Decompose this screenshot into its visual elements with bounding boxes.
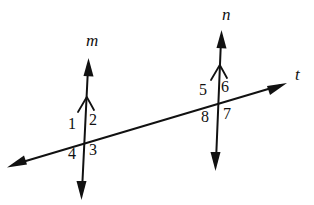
angle-label-4: 4 <box>68 146 76 162</box>
angle-label-2: 2 <box>89 112 97 128</box>
line-n-segment <box>216 40 221 161</box>
line-label-t: t <box>295 66 300 83</box>
line-t-arrow-left <box>7 156 27 168</box>
line-m-arrow-bottom <box>77 181 87 200</box>
line-label-m: m <box>86 32 98 49</box>
line-n-group <box>211 30 228 171</box>
geometry-figure: m n t 1 2 3 4 5 6 7 8 <box>0 0 314 205</box>
line-m-group <box>77 58 95 200</box>
line-t-segment <box>14 86 280 165</box>
line-m-segment <box>82 68 88 191</box>
angle-label-3: 3 <box>89 142 97 158</box>
angle-label-1: 1 <box>68 116 76 132</box>
angle-label-8: 8 <box>201 109 209 125</box>
figure-canvas <box>0 0 314 205</box>
angle-label-5: 5 <box>199 82 207 98</box>
angle-label-7: 7 <box>223 106 231 122</box>
line-n-arrow-top <box>217 30 227 49</box>
line-label-n: n <box>222 6 231 23</box>
line-n-arrow-bottom <box>211 152 221 171</box>
line-m-arrow-top <box>84 58 94 77</box>
line-t-group <box>7 83 287 168</box>
line-t-arrow-right <box>267 83 287 95</box>
angle-label-6: 6 <box>221 79 229 95</box>
